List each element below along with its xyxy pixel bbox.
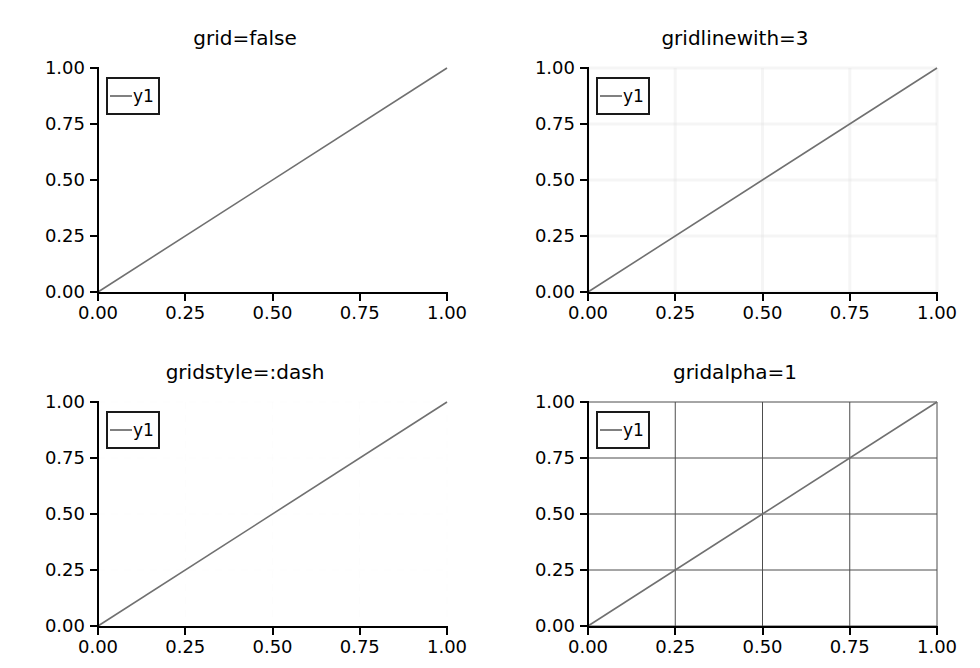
chart-legend[interactable]: y1	[596, 411, 650, 449]
x-axis-tick	[359, 293, 361, 301]
x-axis-tick-label: 0.50	[252, 304, 292, 322]
x-axis-tick-label: 0.25	[165, 638, 205, 656]
x-axis-tick-label: 0.75	[340, 304, 380, 322]
x-axis-tick-label: 0.75	[830, 304, 870, 322]
y-axis-tick	[580, 179, 588, 181]
y-axis-tick-label: 0.25	[535, 227, 575, 245]
y-axis-tick	[90, 401, 98, 403]
x-axis-tick-label: 0.50	[742, 638, 782, 656]
x-axis-tick	[587, 293, 589, 301]
x-axis-tick	[184, 627, 186, 635]
chart-panel: grid=false0.000.250.500.751.000.000.250.…	[0, 0, 490, 334]
panel-title: grid=false	[0, 26, 490, 50]
x-axis-tick-label: 0.25	[165, 304, 205, 322]
legend-line-swatch	[600, 95, 622, 97]
y-axis-tick-label: 0.75	[45, 449, 85, 467]
panel-title: gridstyle=:dash	[0, 360, 490, 384]
x-axis-tick	[97, 627, 99, 635]
plot-area: 0.000.250.500.751.000.000.250.500.751.00…	[588, 68, 937, 292]
x-axis-tick-label: 0.25	[655, 304, 695, 322]
legend-entry-label: y1	[623, 88, 644, 105]
legend-entry-label: y1	[623, 422, 644, 439]
x-axis-tick-label: 0.00	[78, 638, 118, 656]
chart-panel: gridalpha=10.000.250.500.751.000.000.250…	[490, 334, 980, 668]
y-axis-tick	[580, 401, 588, 403]
chart-legend[interactable]: y1	[106, 77, 160, 115]
y-axis-tick-label: 1.00	[45, 393, 85, 411]
legend-entry-label: y1	[133, 88, 154, 105]
x-axis-tick-label: 0.25	[655, 638, 695, 656]
chart-legend[interactable]: y1	[106, 411, 160, 449]
legend-entry-label: y1	[133, 422, 154, 439]
x-axis-tick	[674, 293, 676, 301]
y-axis-tick-label: 0.50	[535, 171, 575, 189]
x-axis-tick	[936, 293, 938, 301]
x-axis-tick	[587, 627, 589, 635]
y-axis-tick	[580, 67, 588, 69]
x-axis-tick	[762, 627, 764, 635]
x-axis-tick-label: 1.00	[427, 304, 467, 322]
y-axis-tick-label: 1.00	[45, 59, 85, 77]
y-axis-tick	[90, 569, 98, 571]
y-axis-tick-label: 1.00	[535, 393, 575, 411]
x-axis-tick	[359, 627, 361, 635]
y-axis-tick-label: 1.00	[535, 59, 575, 77]
x-axis-tick	[849, 293, 851, 301]
x-axis-tick-label: 0.50	[252, 638, 292, 656]
y-axis-tick	[580, 123, 588, 125]
y-axis-tick	[580, 513, 588, 515]
y-axis-tick-label: 0.00	[535, 283, 575, 301]
x-axis-tick-label: 0.75	[830, 638, 870, 656]
panel-title: gridalpha=1	[490, 360, 980, 384]
y-axis-tick-label: 0.25	[45, 561, 85, 579]
x-axis-tick-label: 1.00	[917, 304, 957, 322]
legend-line-swatch	[110, 429, 132, 431]
y-axis-tick	[90, 235, 98, 237]
x-axis-tick-label: 1.00	[427, 638, 467, 656]
x-axis-tick-label: 0.00	[568, 304, 608, 322]
plot-area: 0.000.250.500.751.000.000.250.500.751.00…	[98, 402, 447, 626]
y-axis-tick-label: 0.50	[45, 171, 85, 189]
x-axis-tick-label: 0.75	[340, 638, 380, 656]
x-axis-tick	[97, 293, 99, 301]
figure-canvas: grid=false0.000.250.500.751.000.000.250.…	[0, 0, 980, 668]
chart-panel: gridlinewith=30.000.250.500.751.000.000.…	[490, 0, 980, 334]
x-axis-tick	[849, 627, 851, 635]
x-axis-tick-label: 0.50	[742, 304, 782, 322]
legend-line-swatch	[110, 95, 132, 97]
y-axis-tick-label: 0.25	[45, 227, 85, 245]
chart-panel: gridstyle=:dash0.000.250.500.751.000.000…	[0, 334, 490, 668]
y-axis-tick-label: 0.00	[535, 617, 575, 635]
y-axis-tick	[580, 569, 588, 571]
y-axis-tick-label: 0.75	[535, 115, 575, 133]
x-axis-tick-label: 0.00	[78, 304, 118, 322]
x-axis-tick	[272, 293, 274, 301]
x-axis-tick	[446, 293, 448, 301]
x-axis-tick-label: 0.00	[568, 638, 608, 656]
x-axis-tick	[674, 627, 676, 635]
x-axis-tick	[272, 627, 274, 635]
y-axis-tick	[90, 123, 98, 125]
chart-legend[interactable]: y1	[596, 77, 650, 115]
y-axis-tick-label: 0.50	[535, 505, 575, 523]
x-axis-tick	[936, 627, 938, 635]
x-axis-tick	[446, 627, 448, 635]
x-axis-tick	[762, 293, 764, 301]
plot-area: 0.000.250.500.751.000.000.250.500.751.00…	[588, 402, 937, 626]
y-axis-tick	[90, 513, 98, 515]
plot-area: 0.000.250.500.751.000.000.250.500.751.00…	[98, 68, 447, 292]
y-axis-tick-label: 0.00	[45, 283, 85, 301]
y-axis-tick	[90, 67, 98, 69]
y-axis-tick-label: 0.75	[45, 115, 85, 133]
x-axis-tick	[184, 293, 186, 301]
y-axis-tick-label: 0.50	[45, 505, 85, 523]
panel-title: gridlinewith=3	[490, 26, 980, 50]
legend-line-swatch	[600, 429, 622, 431]
y-axis-tick	[90, 179, 98, 181]
y-axis-tick	[580, 457, 588, 459]
x-axis-tick-label: 1.00	[917, 638, 957, 656]
y-axis-tick-label: 0.00	[45, 617, 85, 635]
y-axis-tick	[580, 235, 588, 237]
y-axis-tick-label: 0.25	[535, 561, 575, 579]
y-axis-tick	[90, 457, 98, 459]
